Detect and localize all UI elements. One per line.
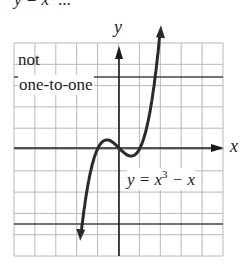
equation-label: y = x3 − x (127, 168, 195, 190)
title-fragment: y = x³ ... (14, 0, 71, 10)
x-axis-arrow-icon (211, 144, 224, 152)
y-axis-arrow-icon (115, 46, 123, 59)
curve-arrow-up-icon (156, 25, 165, 38)
annotation-one-to-one: one-to-one (18, 75, 94, 95)
function-graph (0, 0, 247, 268)
cubic-curve (81, 35, 160, 232)
x-axis-label: x (230, 136, 238, 157)
annotation-not: not (18, 50, 40, 70)
equation-lhs: y = x (127, 170, 162, 189)
y-axis-label: y (114, 17, 122, 38)
equation-rhs: − x (168, 170, 196, 189)
